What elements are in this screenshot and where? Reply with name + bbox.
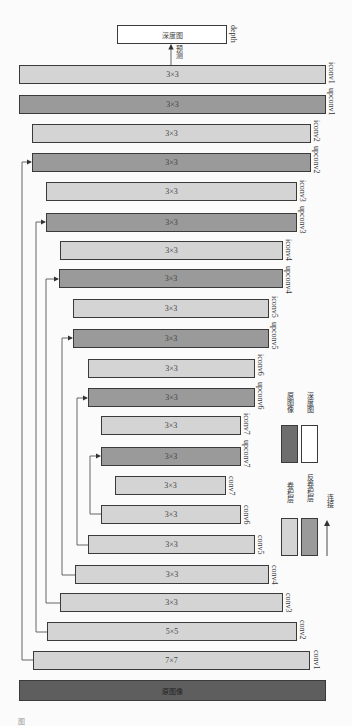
figure-mark: 图 <box>18 716 25 726</box>
legend-conv-label: 卷积层 <box>285 482 294 503</box>
legend-link-label: 连接 <box>325 494 334 508</box>
legend-input-label: 原图像 <box>285 392 294 413</box>
legend-conv-swatch <box>281 518 298 556</box>
legend-deconv-label: 反卷积层 <box>305 474 314 502</box>
legend-depth-swatch <box>301 425 318 463</box>
skip-connections <box>0 0 352 726</box>
legend-link-arrow-icon <box>322 518 332 558</box>
legend-input-swatch <box>281 425 298 463</box>
legend-deconv-swatch <box>301 518 318 556</box>
legend-depth-label: 深度图 <box>305 392 314 413</box>
